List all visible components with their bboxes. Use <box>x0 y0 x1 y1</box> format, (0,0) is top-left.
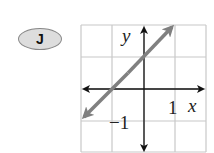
y-tick-label: −1 <box>109 113 129 132</box>
axes <box>84 28 203 150</box>
x-axis-label: x <box>188 96 196 115</box>
x-tick-label: 1 <box>168 98 178 117</box>
y-axis-label: y <box>122 26 130 45</box>
coordinate-graph <box>0 0 214 153</box>
